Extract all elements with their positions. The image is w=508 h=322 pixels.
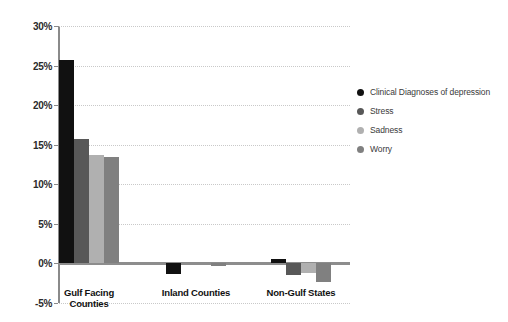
y-axis-tick-label: 5% [0, 218, 52, 229]
category-label-line: Gulf Facing [34, 287, 144, 298]
legend-swatch-icon [357, 108, 364, 115]
y-axis-tick-label: 20% [0, 100, 52, 111]
gridline [59, 26, 350, 27]
bar-chart: 30%25%20%15%10%5%0%-5% Gulf FacingCounti… [0, 0, 508, 322]
y-axis-tick-mark [54, 145, 58, 146]
y-axis-tick-label: 10% [0, 179, 52, 190]
legend-swatch-icon [357, 127, 364, 134]
gridline [59, 145, 350, 146]
legend-item-0[interactable]: Clinical Diagnoses of depression [357, 84, 507, 100]
x-axis-category-label: Inland Counties [141, 287, 251, 298]
bar [74, 139, 89, 263]
legend-item-label: Stress [370, 106, 394, 116]
bar [166, 263, 181, 273]
y-axis-tick-label: 30% [0, 21, 52, 32]
plot-area [59, 26, 350, 303]
legend-item-label: Sadness [370, 125, 402, 135]
y-axis-tick-mark [54, 66, 58, 67]
gridline [59, 66, 350, 67]
y-axis-tick-label: 0% [0, 258, 52, 269]
y-axis-tick-label: 15% [0, 139, 52, 150]
legend-item-3[interactable]: Worry [357, 141, 507, 157]
x-axis-category-label: Non-Gulf States [246, 287, 356, 298]
legend-item-2[interactable]: Sadness [357, 122, 507, 138]
category-label-line: Counties [34, 298, 144, 309]
y-axis-tick-mark [54, 26, 58, 27]
legend-item-label: Worry [370, 144, 392, 154]
bar [301, 263, 316, 272]
bar [89, 155, 104, 263]
legend-item-label: Clinical Diagnoses of depression [370, 87, 490, 97]
bar [316, 263, 331, 281]
gridline [59, 105, 350, 106]
bar [286, 263, 301, 274]
y-axis-tick-mark [54, 224, 58, 225]
y-axis-tick-mark [54, 184, 58, 185]
bar [59, 60, 74, 263]
legend-swatch-icon [357, 89, 364, 96]
bar [211, 263, 226, 265]
y-axis-tick-mark [54, 263, 58, 264]
x-axis-category-label: Gulf FacingCounties [34, 287, 144, 309]
legend-swatch-icon [357, 146, 364, 153]
y-axis-tick-mark [54, 105, 58, 106]
bar [104, 157, 119, 263]
chart-legend: Clinical Diagnoses of depressionStressSa… [357, 84, 507, 160]
category-label-line: Non-Gulf States [246, 287, 356, 298]
bar [271, 259, 286, 263]
category-label-line: Inland Counties [141, 287, 251, 298]
legend-item-1[interactable]: Stress [357, 103, 507, 119]
y-axis-tick-label: 25% [0, 60, 52, 71]
